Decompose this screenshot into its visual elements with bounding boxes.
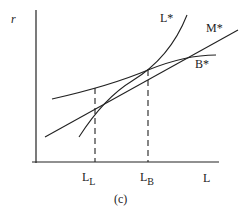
- marker-l-l-sub: L: [89, 176, 95, 187]
- y-axis-label: r: [11, 13, 16, 25]
- marker-label-l-b: LB: [140, 171, 154, 183]
- curve-b-star: [52, 55, 216, 99]
- marker-label-l-l: LL: [82, 171, 95, 183]
- curve-m-star: [45, 30, 238, 137]
- marker-l-b-sub: B: [147, 176, 154, 187]
- x-axis-label: L: [203, 172, 210, 184]
- label-b-star: B*: [195, 58, 209, 70]
- label-l-star: L*: [160, 12, 173, 24]
- figure-caption: (c): [114, 193, 127, 205]
- label-m-star: M*: [206, 22, 223, 34]
